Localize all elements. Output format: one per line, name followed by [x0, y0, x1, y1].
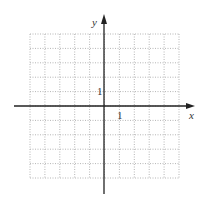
grid-svg [0, 0, 203, 203]
y-axis-label: y [92, 17, 97, 28]
y-axis-arrow-icon [101, 14, 107, 24]
x-axis-label: x [189, 110, 194, 121]
y-tick-label: 1 [97, 86, 103, 97]
x-tick-label: 1 [117, 110, 123, 121]
coordinate-grid: y x 1 1 [0, 0, 203, 203]
